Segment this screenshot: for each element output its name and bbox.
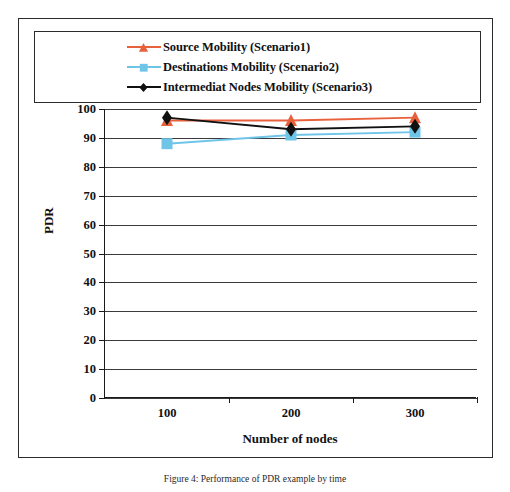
- y-tick-label: 100: [77, 102, 96, 117]
- x-tick-label: 300: [406, 406, 425, 421]
- y-tick: [99, 398, 105, 399]
- plot-area: 0102030405060708090100 100200300: [104, 109, 476, 398]
- y-tick-label: 60: [84, 217, 97, 232]
- series-layer: [105, 109, 477, 398]
- y-tick-label: 20: [84, 333, 97, 348]
- chart-plot-region: PDR 0102030405060708090100 100200300 Num…: [19, 19, 494, 459]
- data-point-marker: [162, 138, 173, 149]
- y-tick-label: 80: [84, 159, 97, 174]
- y-tick-label: 70: [84, 188, 97, 203]
- y-tick-label: 30: [84, 304, 97, 319]
- y-tick-label: 0: [90, 391, 96, 406]
- y-tick-label: 10: [84, 362, 97, 377]
- x-axis-title: Number of nodes: [104, 431, 476, 447]
- y-axis-title: PDR: [41, 207, 57, 234]
- y-tick-label: 90: [84, 130, 97, 145]
- gridline: [105, 398, 477, 399]
- figure-caption: Figure 4: Performance of PDR example by …: [0, 474, 510, 492]
- figure-frame: Source Mobility (Scenario1) Destinations…: [18, 18, 493, 458]
- y-tick-label: 50: [84, 246, 97, 261]
- x-tick-label: 200: [282, 406, 301, 421]
- x-tick: [477, 397, 478, 403]
- x-tick-label: 100: [158, 406, 177, 421]
- y-tick-label: 40: [84, 275, 97, 290]
